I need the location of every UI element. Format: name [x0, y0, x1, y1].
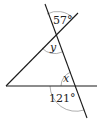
label-y: y: [49, 41, 57, 54]
label-57: 57°: [53, 14, 73, 27]
angle-diagram: 57° y x 121°: [0, 0, 97, 122]
label-121: 121°: [49, 92, 76, 105]
label-x: x: [63, 72, 70, 85]
diagram-canvas: 57° y x 121°: [0, 0, 97, 122]
